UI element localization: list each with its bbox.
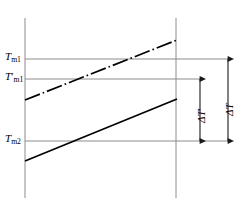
label-t-m2: Tm2 xyxy=(5,133,21,146)
lower-temperature-line xyxy=(25,99,177,161)
label-t-m1-subscript: m1 xyxy=(11,55,21,64)
upper-temperature-line xyxy=(25,40,177,100)
temperature-difference-diagram: Tm1 T′m1 Tm2 ΔT′ ΔT xyxy=(0,0,239,207)
diagram-canvas xyxy=(0,0,239,207)
label-t-m1-prime-subscript: m1 xyxy=(14,75,24,84)
label-t-m1: Tm1 xyxy=(5,51,21,64)
label-delta-t-prime-mark: ′ xyxy=(195,108,207,110)
label-delta-t-prime-symbol: ΔT xyxy=(195,110,207,123)
label-t-m2-subscript: m2 xyxy=(11,137,21,146)
label-delta-t: ΔT xyxy=(224,103,235,116)
label-t-m1-prime: T′m1 xyxy=(5,71,23,84)
label-delta-t-prime: ΔT′ xyxy=(196,108,207,123)
label-delta-t-symbol: ΔT xyxy=(223,103,235,116)
